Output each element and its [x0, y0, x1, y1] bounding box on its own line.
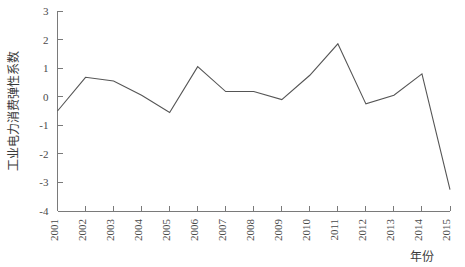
- elasticity-line-chart: 3210-1-2-3-4 200120022003200420052006200…: [0, 0, 465, 267]
- y-axis-tick-labels: 3210-1-2-3-4: [39, 5, 49, 217]
- x-tick-label: 2013: [384, 219, 396, 242]
- x-tick-label: 2006: [188, 219, 200, 242]
- x-tick-label: 2004: [132, 219, 144, 242]
- x-tick-label: 2002: [76, 219, 88, 241]
- y-axis-title: 工业电力消费弹性系数: [6, 51, 21, 171]
- y-axis: 3210-1-2-3-4: [39, 5, 62, 217]
- x-tick-label: 2009: [272, 219, 284, 242]
- x-tick-label: 2008: [244, 219, 256, 242]
- data-series-line: [58, 44, 451, 190]
- x-tick-label: 2015: [440, 219, 452, 242]
- y-tick-label: 1: [43, 62, 49, 74]
- x-axis-title: 年份: [410, 250, 434, 264]
- y-tick-label: -1: [39, 119, 48, 131]
- y-tick-label: 3: [43, 5, 49, 17]
- y-tick-label: -4: [39, 205, 49, 217]
- y-axis-ticks: [58, 11, 63, 211]
- x-tick-label: 2010: [300, 219, 312, 242]
- x-tick-label: 2001: [48, 219, 60, 241]
- y-tick-label: 0: [43, 91, 49, 103]
- x-axis-tick-labels: 2001200220032004200520062007200820092010…: [48, 219, 453, 242]
- x-tick-label: 2003: [104, 219, 116, 242]
- x-tick-label: 2011: [328, 219, 340, 241]
- x-tick-label: 2014: [412, 219, 424, 242]
- chart-container: 3210-1-2-3-4 200120022003200420052006200…: [0, 0, 465, 267]
- x-tick-label: 2012: [356, 219, 368, 241]
- y-tick-label: -2: [39, 148, 48, 160]
- y-tick-label: -3: [39, 176, 49, 188]
- x-tick-label: 2007: [216, 219, 228, 242]
- x-axis-ticks: [58, 206, 451, 211]
- x-tick-label: 2005: [160, 219, 172, 242]
- x-axis: 2001200220032004200520062007200820092010…: [48, 206, 453, 241]
- y-tick-label: 2: [43, 34, 49, 46]
